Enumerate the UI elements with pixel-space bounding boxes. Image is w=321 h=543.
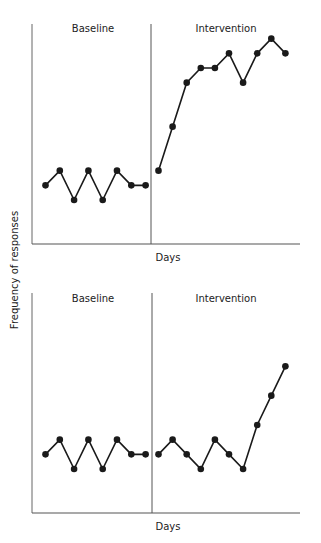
data-point: [226, 50, 233, 57]
data-point: [212, 65, 219, 72]
data-point: [240, 79, 247, 86]
data-point: [114, 436, 121, 443]
bottom-intervention-label: Intervention: [195, 293, 256, 304]
data-point: [85, 436, 92, 443]
y-axis-label: Frequency of responses: [9, 211, 20, 329]
data-point: [282, 363, 289, 370]
data-point: [114, 167, 121, 174]
bottom-panel: Baseline Intervention Days: [32, 293, 300, 532]
data-point: [240, 466, 247, 473]
intervention-line: [159, 366, 286, 469]
data-point: [85, 167, 92, 174]
bottom-x-axis-label: Days: [156, 521, 181, 532]
bottom-baseline-label: Baseline: [72, 293, 114, 304]
data-point: [99, 466, 106, 473]
data-point: [57, 436, 64, 443]
data-point: [142, 182, 149, 189]
top-panel: Baseline Intervention Days: [32, 23, 300, 263]
data-point: [254, 50, 261, 57]
data-point: [57, 167, 64, 174]
figure-canvas: Frequency of responses Baseline Interven…: [0, 0, 321, 543]
data-point: [42, 451, 49, 458]
data-point: [282, 50, 289, 57]
data-point: [142, 451, 149, 458]
data-point: [42, 182, 49, 189]
data-point: [268, 392, 275, 399]
data-point: [226, 451, 233, 458]
data-point: [155, 451, 162, 458]
top-intervention-label: Intervention: [195, 23, 256, 34]
top-x-axis-label: Days: [156, 252, 181, 263]
intervention-line: [159, 39, 286, 171]
data-point: [183, 79, 190, 86]
data-point: [169, 123, 176, 130]
data-point: [99, 197, 106, 204]
data-point: [155, 167, 162, 174]
data-point: [268, 35, 275, 42]
data-point: [212, 436, 219, 443]
data-point: [128, 182, 135, 189]
data-point: [71, 197, 78, 204]
data-point: [71, 466, 78, 473]
data-point: [254, 422, 261, 429]
data-point: [198, 466, 205, 473]
data-point: [198, 65, 205, 72]
bottom-data-series: [42, 363, 289, 472]
data-point: [169, 436, 176, 443]
top-baseline-label: Baseline: [72, 23, 114, 34]
data-point: [183, 451, 190, 458]
data-point: [128, 451, 135, 458]
top-data-series: [42, 35, 289, 203]
